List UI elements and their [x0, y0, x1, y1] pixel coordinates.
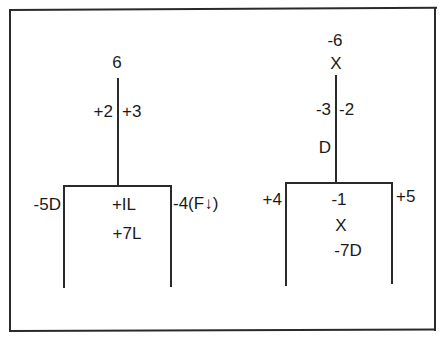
left-stem — [117, 78, 119, 186]
frame-bottom-border — [11, 329, 436, 332]
left-box-right-label: -4(F↓) — [173, 194, 218, 214]
right-box-inner-label-3: -7D — [334, 241, 361, 261]
left-box-inner-label-2: +7L — [113, 224, 142, 244]
right-stem-left-label: -3 — [316, 100, 331, 120]
right-stem-right-label: -2 — [339, 100, 354, 120]
left-box-right-side — [170, 185, 172, 287]
left-box-inner-label-1: +IL — [112, 195, 136, 215]
right-top-x-marker: X — [330, 54, 341, 74]
left-box-left-side — [63, 185, 65, 288]
right-box-right-side — [391, 182, 393, 284]
right-box-left-label: +4 — [263, 190, 282, 210]
right-stem-lower-label: D — [319, 138, 331, 158]
frame-left-border — [9, 9, 11, 332]
right-box-inner-label-2: X — [335, 216, 346, 236]
left-stem-right-label: +3 — [122, 102, 141, 122]
left-stem-left-label: +2 — [94, 102, 113, 122]
right-stem — [335, 75, 337, 183]
right-box-top — [285, 182, 392, 184]
frame-top-border — [9, 7, 437, 11]
right-top-label: -6 — [327, 31, 342, 51]
diagram-canvas: 6 +2 +3 -5D +IL +7L -4(F↓) -6 X -3 -2 D … — [0, 0, 442, 340]
left-top-label: 6 — [112, 53, 121, 73]
left-box-left-label: -5D — [34, 195, 61, 215]
right-box-right-label: +5 — [396, 187, 415, 207]
left-box-top — [63, 185, 171, 187]
right-box-inner-label-1: -1 — [331, 190, 346, 210]
right-box-left-side — [285, 182, 287, 286]
frame-right-border — [434, 7, 436, 331]
